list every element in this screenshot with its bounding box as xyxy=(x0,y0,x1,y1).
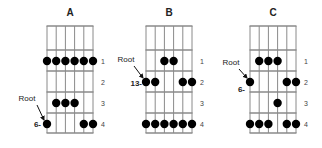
string-marker-label: 13- xyxy=(130,79,142,88)
fretboard-diagrams: A1234Root6- B1234Root13- C1234Root6- xyxy=(0,0,322,148)
note-dot xyxy=(80,120,88,128)
note-dot xyxy=(80,57,88,65)
note-dot xyxy=(264,57,272,65)
note-dot xyxy=(292,120,300,128)
note-dot xyxy=(264,120,272,128)
note-dot xyxy=(52,57,60,65)
fret-number: 3 xyxy=(200,100,204,107)
note-dot xyxy=(188,120,196,128)
fret-number: 2 xyxy=(200,79,204,86)
string-marker-label: 6- xyxy=(238,85,245,94)
fret-number: 3 xyxy=(101,100,105,107)
note-dot xyxy=(61,57,69,65)
diagram-title: C xyxy=(269,7,276,18)
note-dot xyxy=(61,99,69,107)
note-dot xyxy=(151,78,159,86)
fret-number: 1 xyxy=(200,58,204,65)
diagram-b: B1234Root13- xyxy=(118,7,204,133)
root-label: Root xyxy=(19,94,37,103)
note-dot xyxy=(179,78,187,86)
fret-number: 1 xyxy=(101,58,105,65)
note-dot xyxy=(43,57,51,65)
root-arrow-icon xyxy=(134,66,143,78)
note-dot xyxy=(160,120,168,128)
root-label: Root xyxy=(223,58,241,67)
root-note-dot xyxy=(142,78,150,86)
note-dot xyxy=(188,78,196,86)
root-note-dot xyxy=(43,120,51,128)
diagram-a: A1234Root6- xyxy=(19,7,105,133)
root-arrow-icon xyxy=(37,105,44,120)
diagram-title: A xyxy=(66,7,73,18)
note-dot xyxy=(283,120,291,128)
root-note-dot xyxy=(246,78,254,86)
note-dot xyxy=(70,57,78,65)
note-dot xyxy=(273,99,281,107)
note-dot xyxy=(255,120,263,128)
note-dot xyxy=(151,120,159,128)
root-arrow-icon xyxy=(239,69,247,78)
fret-number: 2 xyxy=(304,79,308,86)
note-dot xyxy=(246,120,254,128)
fret-number: 4 xyxy=(304,121,308,128)
note-dot xyxy=(292,78,300,86)
note-dot xyxy=(89,120,97,128)
note-dot xyxy=(89,57,97,65)
diagram-c: C1234Root6- xyxy=(223,7,308,133)
note-dot xyxy=(283,78,291,86)
note-dot xyxy=(52,99,60,107)
fret-number: 4 xyxy=(101,121,105,128)
diagram-title: B xyxy=(165,7,172,18)
fret-number: 2 xyxy=(101,79,105,86)
fret-number: 1 xyxy=(304,58,308,65)
note-dot xyxy=(255,57,263,65)
note-dot xyxy=(273,57,281,65)
note-dot xyxy=(160,57,168,65)
note-dot xyxy=(70,99,78,107)
fret-number: 3 xyxy=(304,100,308,107)
fret-number: 4 xyxy=(200,121,204,128)
root-label: Root xyxy=(118,55,136,64)
note-dot xyxy=(169,120,177,128)
note-dot xyxy=(142,120,150,128)
string-marker-label: 6- xyxy=(34,120,41,129)
note-dot xyxy=(179,120,187,128)
note-dot xyxy=(169,57,177,65)
